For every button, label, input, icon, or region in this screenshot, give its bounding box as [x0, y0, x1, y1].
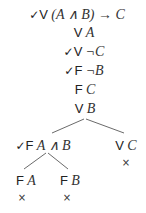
edge-to-right-branch: [86, 119, 124, 133]
trunk-node-1: ✓V (A ∧ B) → C: [29, 8, 125, 22]
edge-to-left-leaf: [24, 153, 46, 169]
edge-to-left-branch: [52, 119, 84, 133]
formula: C: [127, 138, 136, 153]
formula: (A ∧ B) → C: [51, 7, 125, 22]
truth-value: F: [74, 63, 82, 78]
formula: ¬C: [86, 44, 105, 59]
formula: B: [87, 101, 96, 116]
closed-branch-icon: ×: [63, 192, 71, 203]
formula: A ∧ B: [37, 138, 71, 153]
formula: ¬B: [86, 63, 104, 78]
truth-value: F: [26, 138, 34, 153]
closed-branch-icon: ×: [18, 192, 26, 203]
formula: A: [27, 173, 36, 188]
truth-value: V: [74, 44, 83, 59]
truth-value: V: [75, 101, 84, 116]
branch-left-node: ✓F A ∧ B: [15, 139, 70, 153]
truth-value: V: [115, 138, 124, 153]
truth-value: F: [60, 173, 68, 188]
leaf-right-node: F B: [60, 174, 80, 188]
trunk-node-4: ✓F ¬B: [64, 64, 103, 78]
trunk-node-6: V B: [75, 102, 95, 116]
trunk-node-5: F C: [75, 83, 96, 97]
check-icon: ✓: [64, 64, 74, 78]
check-icon: ✓: [15, 139, 25, 153]
truth-value: F: [16, 173, 24, 188]
edge-to-right-leaf: [48, 153, 68, 169]
leaf-left-node: F A: [16, 174, 36, 188]
truth-value: F: [75, 82, 83, 97]
check-icon: ✓: [29, 8, 39, 22]
trunk-node-2: V A: [74, 26, 94, 40]
trunk-node-3: ✓V ¬C: [64, 45, 105, 59]
formula: C: [86, 82, 95, 97]
formula: A: [86, 25, 95, 40]
closed-branch-icon: ×: [122, 157, 130, 168]
branch-right-node: V C: [115, 139, 136, 153]
formula: B: [71, 173, 80, 188]
truth-value: V: [39, 7, 48, 22]
truth-value: V: [74, 25, 83, 40]
check-icon: ✓: [64, 45, 74, 59]
